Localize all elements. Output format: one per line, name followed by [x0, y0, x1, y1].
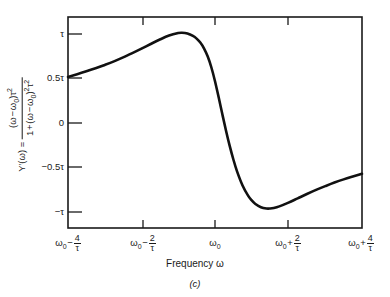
y-axis-title-fraction: (ω − ω0)τ2 1 + (ω − ω0)2τ2 — [6, 77, 39, 139]
x-tick-label-minus-2-tau: ω0 − 2τ — [113, 234, 173, 254]
x-tick-label-omega-zero: ω0 — [185, 238, 245, 250]
x-tick-marks-top — [143, 17, 288, 25]
x-tick-label-plus-4-tau: ω0 + 4τ — [331, 234, 390, 254]
x-tick-marks-bottom — [143, 220, 288, 228]
figure-caption: (c) — [0, 278, 390, 289]
y-axis-denominator: 1 + (ω − ω0)2τ2 — [22, 77, 39, 139]
x-axis-title: Frequency ω — [0, 258, 390, 269]
x-tick-label-plus-2-tau: ω0 + 2τ — [258, 234, 318, 254]
y-axis-numerator: (ω − ω0)τ2 — [6, 77, 22, 139]
x-axis-title-symbol: ω — [216, 258, 224, 269]
plot-frame — [68, 17, 362, 228]
dispersion-curve — [68, 33, 362, 209]
x-tick-label-minus-4-tau: ω0 − 4τ — [38, 234, 98, 254]
y-axis-title: Y′(ω) = (ω − ω0)τ2 1 + (ω − ω0)2τ2 — [6, 24, 39, 224]
y-axis-title-lhs: Y′(ω) = — [16, 142, 27, 172]
figure-container: τ 0.5τ 0 −0.5τ −τ ω0 − 4τ ω0 − 2τ ω0 ω0 … — [0, 0, 390, 297]
x-axis-title-text: Frequency — [166, 258, 216, 269]
y-tick-marks-left — [68, 34, 82, 212]
